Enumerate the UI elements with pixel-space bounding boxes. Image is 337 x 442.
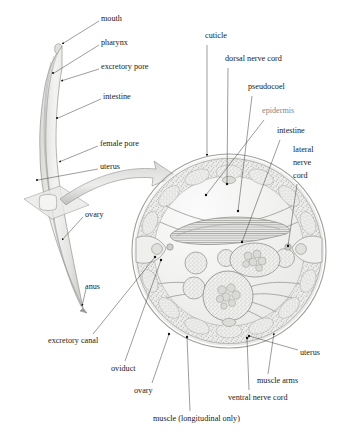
leader-intestine [58,99,101,118]
label-epidermis: epidermis [262,106,294,115]
dot-pharynx [52,72,54,74]
leader-ovary-section [152,334,169,383]
label-lateral-nerve-cord-line1: lateral [293,145,314,154]
leader-anus [82,289,86,306]
leader-female-pore [59,146,98,162]
dot-uterus-worm [36,179,38,181]
label-ovary-section: ovary [134,386,154,395]
dot-excretory-canal [154,256,156,258]
label-intestine-worm: intestine [103,92,131,101]
dot-ovary-section [168,333,170,335]
cross-section-group: cuticle dorsal nerve cord pseudocoel epi… [48,31,326,423]
leader-muscle-longitudinal [187,337,190,411]
label-uterus-section: uterus [300,348,320,357]
label-muscle-longitudinal: muscle (longitudinal only) [153,414,240,423]
label-dorsal-nerve-cord: dorsal nerve cord [225,54,282,63]
figure-canvas: mouth pharynx excretory pore intestine f… [0,0,337,442]
label-pharynx: pharynx [101,38,128,47]
label-intestine-section: intestine [277,126,305,135]
label-lateral-nerve-cord-line2: nerve [293,158,312,167]
label-pseudocoel: pseudocoel [248,82,286,91]
nematode-figure: mouth pharynx excretory pore intestine f… [0,0,337,442]
ovary-section-a [185,252,207,274]
label-excretory-canal: excretory canal [48,336,99,345]
label-female-pore: female pore [100,139,139,148]
dot-intestine-section [241,241,243,243]
label-ventral-nerve-cord: ventral nerve cord [228,393,288,402]
dot-intestine-worm [56,117,58,119]
dot-uterus-section [248,335,250,337]
label-oviduct: oviduct [111,364,136,373]
dot-lateral-nerve-cord [287,245,289,247]
label-cuticle: cuticle [205,31,227,40]
worm-body-outline [40,46,83,308]
dot-muscle-longitudinal [186,336,188,338]
dot-epidermis [205,194,207,196]
label-ovary-worm: ovary [85,210,105,219]
ovary-section-b [183,277,205,299]
label-uterus-worm: uterus [100,162,120,171]
dot-pseudocoel [237,210,239,212]
dorsal-nerve-cord [222,176,236,184]
label-anus: anus [85,282,100,291]
dot-oviduct [160,259,162,261]
worm-tail-tip [80,308,87,313]
label-muscle-arms: muscle arms [257,376,298,385]
label-excretory-pore: excretory pore [101,62,149,71]
leader-excretory-pore [61,69,99,81]
label-mouth: mouth [101,14,122,23]
ventral-nerve-cord [222,318,236,326]
leader-mouth [62,21,99,44]
dot-dorsal-nerve-cord [226,183,228,185]
dot-ventral-nerve-cord [246,337,248,339]
label-lateral-nerve-cord-line3: cord [293,171,308,180]
